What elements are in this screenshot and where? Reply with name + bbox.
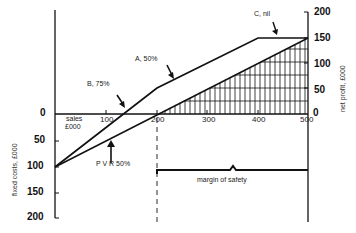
label-b: B, 75%	[87, 80, 110, 87]
x-tick: 100	[100, 115, 113, 124]
y-tick-left: 150	[27, 186, 44, 197]
x-tick: 400	[252, 115, 265, 124]
label-c: C, nil	[254, 10, 270, 17]
y-tick-right: 50	[314, 84, 325, 95]
arrow-a-icon	[167, 65, 174, 79]
label-a: A, 50%	[135, 55, 158, 62]
arrow-c-icon	[272, 22, 278, 35]
margin-of-safety-brace	[157, 166, 308, 174]
hatched-profit-area	[157, 30, 308, 114]
y-tick-left: 100	[27, 160, 44, 171]
left-axis-label: fixed costs, £000	[11, 143, 18, 196]
y-tick-right: 0	[313, 107, 319, 118]
arrow-b-icon	[117, 95, 125, 108]
y-tick-right: 100	[314, 58, 331, 69]
y-tick-right: 150	[314, 32, 331, 43]
y-tick-right: 200	[314, 6, 331, 17]
x-tick: 300	[202, 115, 215, 124]
x-axis-unit: £000	[65, 123, 81, 130]
y-tick-left: 0	[40, 107, 46, 118]
y-tick-left: 50	[34, 134, 45, 145]
x-axis-label: sales	[66, 115, 82, 122]
label-pvr: P V R 50%	[96, 160, 130, 167]
x-tick: 200	[151, 115, 164, 124]
label-margin-of-safety: margin of safety	[197, 176, 247, 183]
right-axis-label: net profit, £000	[339, 65, 346, 112]
x-tick: 500	[300, 115, 313, 124]
y-tick-left: 200	[27, 211, 44, 222]
